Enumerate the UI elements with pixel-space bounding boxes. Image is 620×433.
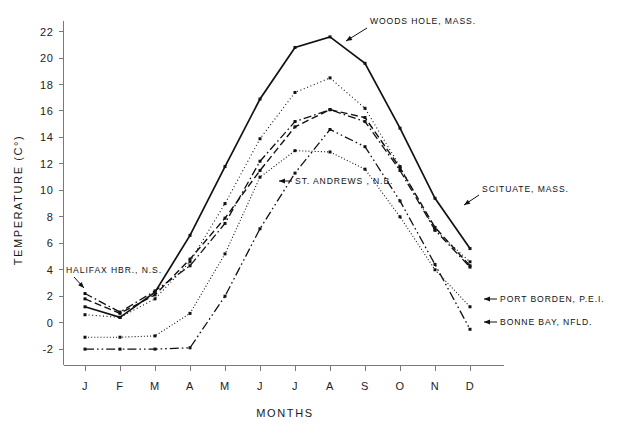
data-point-marker (329, 108, 332, 111)
annotation-arrowhead (346, 36, 352, 41)
data-point-marker (434, 226, 437, 229)
data-point-marker (224, 252, 227, 255)
y-axis-title: TEMPERATURE (C°) (12, 135, 24, 266)
axes-group (64, 21, 505, 366)
series-annotation-label: WOODS HOLE, MASS. (370, 16, 476, 26)
data-point-marker (294, 91, 297, 94)
data-point-marker (119, 316, 122, 319)
data-point-marker (189, 264, 192, 267)
data-point-marker (399, 169, 402, 172)
y-tick-label: 12 (40, 158, 53, 170)
data-point-marker (469, 328, 472, 331)
data-point-marker (259, 227, 262, 230)
data-point-marker (364, 145, 367, 148)
x-tick-label: J (82, 380, 88, 392)
data-point-marker (469, 266, 472, 269)
y-tick-label: 2 (47, 290, 54, 302)
data-point-marker (259, 137, 262, 140)
data-point-marker (259, 176, 262, 179)
annotation-arrowhead (279, 179, 285, 184)
data-point-marker (224, 295, 227, 298)
temperature-months-line-chart: -20246810121416182022 JFMAMJJASOND TEMPE… (0, 0, 620, 433)
x-tick-label: A (186, 380, 194, 392)
data-point-marker (224, 165, 227, 168)
x-tick-label: A (326, 380, 334, 392)
data-point-marker (189, 260, 192, 263)
x-tick-label: J (257, 380, 263, 392)
data-point-marker (399, 166, 402, 169)
data-point-marker (469, 305, 472, 308)
data-point-marker (469, 260, 472, 263)
y-tick-label: 10 (40, 184, 53, 196)
y-tick-label: 20 (40, 52, 53, 64)
data-point-marker (434, 229, 437, 232)
data-point-marker (294, 120, 297, 123)
data-point-marker (224, 217, 227, 220)
data-point-marker (399, 127, 402, 130)
data-point-marker (399, 199, 402, 202)
x-tick-label: D (466, 380, 475, 392)
y-tick-label: 4 (47, 264, 54, 276)
y-tick-label: -2 (43, 343, 54, 355)
data-point-marker (189, 346, 192, 349)
y-tick-label: 14 (40, 131, 53, 143)
series-markers-group (84, 35, 472, 350)
data-point-marker (294, 125, 297, 128)
data-point-marker (294, 46, 297, 49)
data-point-marker (84, 297, 87, 300)
data-point-marker (84, 336, 87, 339)
x-tick-label: J (292, 380, 298, 392)
data-point-marker (259, 98, 262, 101)
data-point-marker (364, 107, 367, 110)
data-point-marker (294, 149, 297, 152)
y-tick-label: 16 (40, 105, 53, 117)
chart-canvas: -20246810121416182022 JFMAMJJASOND TEMPE… (0, 0, 620, 433)
data-point-marker (329, 150, 332, 153)
series-line (85, 78, 470, 317)
data-point-marker (329, 35, 332, 38)
x-axis-ticks: JFMAMJJASOND (82, 365, 474, 392)
series-annotation-label: SCITUATE, MASS. (482, 184, 569, 194)
data-point-marker (364, 168, 367, 171)
data-point-marker (119, 348, 122, 351)
data-point-marker (84, 348, 87, 351)
data-point-marker (154, 348, 157, 351)
x-tick-label: O (395, 380, 404, 392)
data-point-marker (84, 292, 87, 295)
x-tick-label: M (220, 380, 230, 392)
annotation-arrowhead (464, 200, 470, 205)
y-tick-label: 22 (40, 26, 53, 38)
data-point-marker (434, 268, 437, 271)
series-annotations-group: WOODS HOLE, MASS.SCITUATE, MASS.ST. ANDR… (66, 16, 605, 327)
data-point-marker (84, 305, 87, 308)
data-point-marker (154, 293, 157, 296)
series-line (85, 110, 470, 312)
series-line (85, 129, 470, 349)
data-point-marker (364, 62, 367, 65)
data-point-marker (399, 215, 402, 218)
series-line (85, 151, 470, 338)
y-axis-ticks: -20246810121416182022 (40, 26, 63, 356)
y-tick-label: 8 (47, 211, 54, 223)
data-point-marker (469, 247, 472, 250)
data-point-marker (84, 313, 87, 316)
data-point-marker (224, 222, 227, 225)
data-point-marker (364, 116, 367, 119)
data-point-marker (434, 263, 437, 266)
data-point-marker (434, 197, 437, 200)
series-line (85, 110, 470, 314)
series-annotation-label: HALIFAX HBR., N.S. (66, 265, 162, 275)
data-point-marker (329, 128, 332, 131)
x-axis-title: MONTHS (256, 407, 313, 419)
data-point-marker (154, 289, 157, 292)
x-tick-label: F (116, 380, 123, 392)
data-point-marker (259, 169, 262, 172)
data-point-marker (294, 172, 297, 175)
series-lines-group (85, 37, 470, 349)
series-annotation-label: BONNE BAY, NFLD. (500, 317, 592, 327)
x-tick-label: S (361, 380, 369, 392)
series-annotation-label: ST. ANDREWS , N.B. (295, 176, 393, 186)
annotation-arrowhead (484, 320, 490, 325)
data-point-marker (189, 234, 192, 237)
data-point-marker (364, 120, 367, 123)
